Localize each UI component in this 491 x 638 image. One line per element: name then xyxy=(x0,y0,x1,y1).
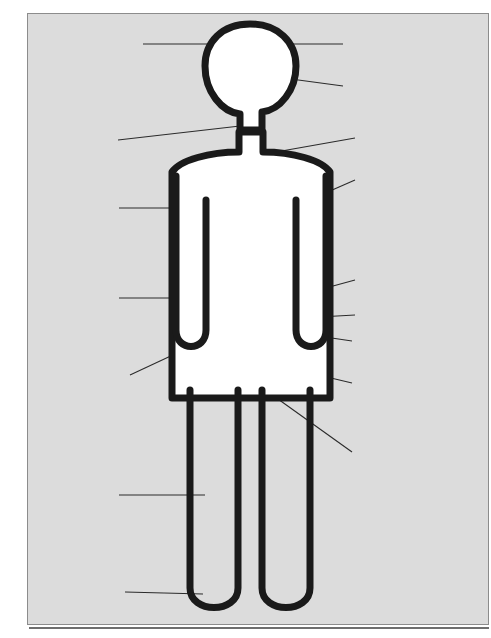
head-shape xyxy=(205,24,296,130)
leader-throat xyxy=(118,126,240,140)
leg-right-shape xyxy=(262,390,310,608)
torso-shape xyxy=(172,132,330,398)
leg-left-shape xyxy=(190,390,238,608)
diagram-canvas xyxy=(0,0,491,638)
body-figure-layer xyxy=(0,0,491,638)
body-outline xyxy=(172,24,330,608)
